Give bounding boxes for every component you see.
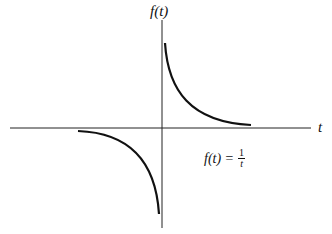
fraction-denominator: t [240, 159, 243, 169]
formula-lhs: f(t) = [204, 151, 234, 167]
x-axis-label: t [318, 119, 322, 136]
y-axis-label: f(t) [150, 3, 168, 20]
chart-canvas [0, 0, 332, 234]
curve-negative-branch [78, 131, 159, 214]
function-annotation: f(t) = 1 t [204, 148, 245, 169]
fraction: 1 t [238, 148, 245, 169]
curve-positive-branch [165, 43, 251, 125]
